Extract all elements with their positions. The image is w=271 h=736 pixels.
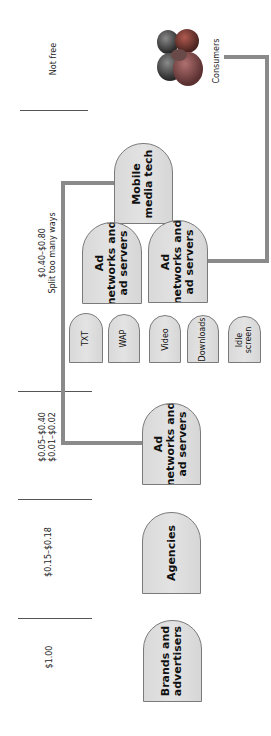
price-label-mobile-tier: $0.40–$0.80 Split too many ways bbox=[38, 212, 58, 293]
channel-video: Video bbox=[149, 315, 181, 363]
consumers-label: Consumers bbox=[212, 39, 221, 84]
node-mobile-media-tech: Mobile media tech bbox=[114, 143, 173, 224]
price-label-agency-tier: $0.15–$0.18 bbox=[44, 527, 54, 577]
node-ad-networks-2: Ad networks and ad servers bbox=[148, 220, 208, 303]
people-group-icon bbox=[152, 27, 208, 89]
price-label-not-free: Not free bbox=[49, 43, 59, 75]
tier-divider bbox=[18, 618, 92, 619]
connector-to-adnet-3 bbox=[61, 441, 143, 445]
tier-divider bbox=[18, 391, 92, 392]
connector-mobile-h bbox=[61, 181, 115, 185]
node-ad-networks-3: Ad networks and ad servers bbox=[142, 403, 201, 485]
connector-consumers-to-adnet bbox=[207, 259, 269, 263]
tier-divider bbox=[18, 499, 92, 500]
channel-wap: WAP bbox=[108, 314, 140, 363]
price-label-network-tier: $0.05–$0.40 $0.01–$0.02 bbox=[38, 412, 58, 462]
connector-consumers-h bbox=[224, 55, 269, 59]
price-label-brand-tier: $1.00 bbox=[45, 646, 55, 669]
tier-divider bbox=[20, 110, 88, 111]
connector-consumers-v bbox=[265, 55, 269, 263]
channel-downloads: Downloads bbox=[187, 315, 219, 363]
node-ad-networks-1: Ad networks and ad servers bbox=[82, 222, 142, 304]
node-agencies: Agencies bbox=[142, 512, 201, 594]
connector-mobile-v bbox=[61, 181, 65, 445]
node-brands-and-advertisers: Brands and advertisers bbox=[143, 620, 202, 702]
channel-txt: TXT bbox=[69, 313, 103, 363]
channel-idle-screen: Idle screen bbox=[228, 316, 261, 363]
